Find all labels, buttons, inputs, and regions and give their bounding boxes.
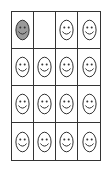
smiley-face-icon bbox=[15, 93, 30, 115]
grid-cell-r2-c4 bbox=[78, 49, 100, 86]
smiley-face-icon bbox=[82, 93, 97, 115]
grid-cell-r2-c2 bbox=[34, 49, 56, 86]
smiley-face-icon bbox=[82, 56, 97, 78]
smiley-face-icon bbox=[15, 131, 30, 153]
grid-cell-r3-c2 bbox=[34, 86, 56, 123]
smiley-face-icon bbox=[82, 131, 97, 153]
smiley-face-icon bbox=[37, 56, 52, 78]
grid-cell-r4-c2 bbox=[34, 123, 56, 160]
smiley-face-icon bbox=[59, 56, 74, 78]
smiley-face-icon bbox=[59, 93, 74, 115]
grid-cell-r3-c3 bbox=[56, 86, 78, 123]
smiley-face-icon bbox=[37, 93, 52, 115]
grid-cell-r4-c1 bbox=[12, 123, 34, 160]
grid-cell-r1-c3 bbox=[56, 12, 78, 49]
shaded-smiley-face-icon bbox=[15, 19, 30, 41]
grid-cell-r1-c2 bbox=[34, 12, 56, 49]
smiley-face-icon bbox=[59, 131, 74, 153]
grid-cell-r2-c3 bbox=[56, 49, 78, 86]
smiley-grid bbox=[11, 11, 101, 161]
grid-cell-r1-c4 bbox=[78, 12, 100, 49]
grid-cell-r4-c4 bbox=[78, 123, 100, 160]
smiley-face-icon bbox=[59, 19, 74, 41]
grid-cell-r3-c1 bbox=[12, 86, 34, 123]
grid-cell-r3-c4 bbox=[78, 86, 100, 123]
smiley-face-icon bbox=[37, 131, 52, 153]
grid-cell-r1-c1 bbox=[12, 12, 34, 49]
grid-cell-r4-c3 bbox=[56, 123, 78, 160]
grid-cell-r2-c1 bbox=[12, 49, 34, 86]
smiley-face-icon bbox=[82, 19, 97, 41]
smiley-face-icon bbox=[15, 56, 30, 78]
